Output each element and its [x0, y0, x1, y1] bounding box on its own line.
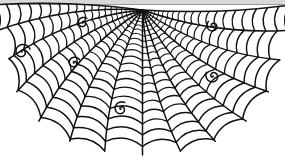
- web-ring-segment: [153, 26, 157, 29]
- web-ring-segment: [143, 139, 177, 146]
- web-ring-segment: [7, 27, 15, 55]
- web-ring-segment: [155, 80, 170, 85]
- web-radial-strand: [143, 5, 286, 12]
- web-ring-segment: [43, 39, 51, 59]
- web-ring-segment: [34, 73, 52, 97]
- web-ring-segment: [170, 19, 173, 27]
- web-ring-segment: [39, 3, 41, 18]
- web-ring-segment: [148, 52, 157, 54]
- web-ring-segment: [65, 79, 85, 96]
- spider-web-illustration: [0, 0, 285, 160]
- web-ring-segment: [160, 95, 180, 102]
- web-ring-segment: [143, 119, 168, 124]
- web-ring-segment: [116, 79, 142, 85]
- web-ring-segment: [101, 27, 106, 37]
- web-ring-segment: [236, 30, 244, 52]
- web-ring-segment: [181, 22, 185, 32]
- web-ring-segment: [128, 26, 133, 29]
- web-ring-segment: [243, 91, 267, 119]
- web-ring-segment: [232, 10, 236, 29]
- web-ring-segment: [269, 31, 278, 59]
- web-ring-segment: [146, 40, 152, 42]
- web-ring-segment: [69, 27, 74, 42]
- web-ring-segment: [154, 43, 162, 47]
- web-ring-segment: [132, 33, 143, 36]
- web-ring-segment: [110, 50, 123, 57]
- web-ring-segment: [78, 64, 94, 79]
- web-ring-segment: [123, 56, 143, 61]
- web-ring-segment: [170, 72, 186, 80]
- web-ring-segment: [71, 72, 89, 88]
- web-ring-segment: [149, 58, 159, 61]
- web-ring-segment: [163, 60, 175, 66]
- web-ring-segment: [6, 4, 10, 27]
- web-ring-segment: [39, 18, 44, 38]
- web-ring-segment: [111, 32, 118, 39]
- web-ring-segment: [170, 30, 176, 37]
- web-ring-segment: [153, 72, 167, 76]
- web-ring-segment: [246, 31, 254, 55]
- web-ring-segment: [112, 96, 143, 103]
- web-ring-segment: [143, 109, 164, 113]
- web-ring-segment: [76, 4, 77, 12]
- web-ring-segment: [9, 59, 19, 91]
- web-ring-segment: [105, 10, 106, 16]
- web-ring-segment: [266, 60, 280, 91]
- web-ring-segment: [227, 30, 234, 51]
- web-ring-segment: [105, 16, 107, 24]
- web-ring-segment: [49, 16, 53, 34]
- web-ring-segment: [275, 6, 279, 30]
- web-ring-segment: [125, 30, 132, 34]
- web-ring-segment: [105, 138, 142, 146]
- web-spiral-curl: [69, 57, 79, 66]
- web-ring-segment: [172, 11, 174, 19]
- web-ring-segment: [143, 129, 172, 135]
- web-ring-segment: [193, 42, 202, 55]
- web-ring-segment: [143, 100, 161, 103]
- web-ring-segment: [198, 106, 223, 122]
- web-ring-segment: [162, 37, 169, 43]
- web-ring-segment: [118, 39, 127, 45]
- web-ring-segment: [51, 59, 65, 80]
- web-ring-segment: [106, 36, 114, 44]
- web-ring-segment: [167, 112, 191, 121]
- web-ring-segment: [14, 55, 27, 81]
- web-ring-segment: [180, 139, 214, 151]
- web-ring-segment: [184, 12, 186, 23]
- web-ring-segment: [18, 4, 21, 24]
- web-ring-segment: [122, 17, 124, 22]
- web-ring-segment: [143, 60, 150, 61]
- web-ring-segment: [84, 4, 85, 11]
- web-ring-segment: [125, 50, 142, 54]
- web-ring-segment: [186, 39, 194, 51]
- web-ring-segment: [156, 29, 161, 33]
- web-ring-segment: [194, 25, 199, 38]
- web-ring-segment: [29, 3, 32, 21]
- web-ring-segment: [61, 30, 67, 47]
- web-ring-segment: [252, 9, 256, 31]
- web-ring-segment: [143, 75, 153, 77]
- web-ring-segment: [161, 24, 165, 29]
- web-ring-segment: [59, 88, 81, 106]
- web-ring-segment: [134, 29, 143, 31]
- web-ring-segment: [165, 27, 170, 33]
- web-ring-segment: [52, 34, 59, 52]
- web-ring-segment: [143, 83, 155, 85]
- web-ring-segment: [118, 71, 142, 77]
- web-ring-segment: [163, 104, 185, 112]
- web-ring-segment: [98, 18, 101, 27]
- web-ring-segment: [95, 30, 101, 41]
- web-ring-segment: [121, 63, 143, 68]
- web-ring-segment: [88, 33, 95, 45]
- web-spiral-curl: [115, 102, 125, 114]
- web-ring-segment: [175, 21, 179, 30]
- web-ring-segment: [186, 60, 200, 72]
- web-ring-segment: [58, 3, 60, 14]
- web-ring-segment: [122, 34, 130, 39]
- web-ring-segment: [98, 10, 99, 18]
- web-ring-segment: [223, 83, 244, 106]
- web-ring-segment: [257, 31, 266, 57]
- web-ring-segment: [160, 54, 171, 59]
- web-ring-segment: [206, 112, 233, 130]
- web-ring-segment: [176, 130, 206, 142]
